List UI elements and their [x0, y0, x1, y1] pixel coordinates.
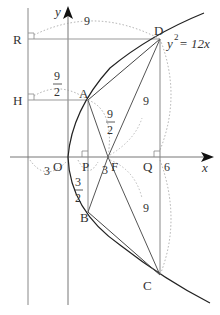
label-x-axis: x [201, 160, 208, 175]
label-F: F [111, 159, 118, 174]
right-angle-Q [154, 151, 160, 157]
label-H: H [13, 93, 22, 108]
measure-PB-den: 2 [75, 191, 81, 205]
measure-HA-den: 2 [54, 85, 60, 99]
label-D: D [154, 23, 163, 38]
label-y-axis: y [53, 4, 61, 19]
label-O: O [53, 159, 62, 174]
measure-PB-num: 3 [75, 175, 81, 189]
arc-QC [160, 160, 171, 275]
chord-BC [88, 212, 160, 275]
measure-directrix-O: 3 [44, 164, 50, 178]
label-Q: Q [143, 159, 153, 174]
parabola-diagram: R H D A O P F Q B C y x y 2 = 12x 9 9 2 … [0, 0, 220, 315]
segment-AF [88, 100, 108, 157]
label-P: P [82, 159, 89, 174]
label-R: R [13, 32, 22, 47]
equation-rest: = 12x [179, 36, 210, 51]
arc-DQ [160, 39, 171, 150]
measure-AF-den: 2 [107, 123, 113, 137]
arc-RD [34, 21, 160, 39]
right-angle-H [28, 94, 34, 100]
measure-RD: 9 [84, 14, 90, 28]
segment-DF [108, 39, 160, 157]
right-angle-P [82, 151, 88, 157]
measure-DQ: 9 [143, 94, 149, 108]
equation-exponent: 2 [174, 32, 179, 42]
label-C: C [143, 278, 152, 293]
measure-HA-num: 9 [54, 69, 60, 83]
arc-FD [110, 118, 142, 155]
equation-base: y [165, 36, 173, 51]
measure-Q-x: 6 [164, 160, 170, 174]
label-A: A [79, 86, 89, 101]
label-B: B [80, 210, 89, 225]
measure-QC: 9 [143, 201, 149, 215]
segment-CF [108, 157, 160, 275]
measure-AF-num: 9 [107, 107, 113, 121]
chord-AD [88, 39, 160, 100]
right-angle-R [28, 33, 34, 39]
measure-PF: 3 [102, 163, 108, 177]
